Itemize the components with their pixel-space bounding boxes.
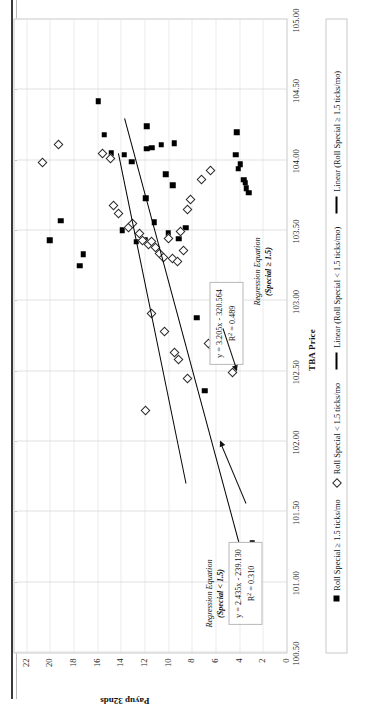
data-point-special-ge <box>233 152 239 158</box>
x-tick-label: 104.00 <box>291 149 301 173</box>
y-axis-title: Payup 32nds <box>100 696 149 706</box>
x-tick-label: 102.00 <box>291 430 301 454</box>
annotation-title-line2: (Special < 1.5) <box>216 569 225 618</box>
x-gridline <box>15 89 287 90</box>
legend-open-diamond-icon <box>332 478 342 488</box>
regression-annotation-title: Regression Equation(Special < 1.5) <box>204 559 226 627</box>
y-tick-label: 20 <box>44 659 54 676</box>
x-gridline <box>15 441 287 442</box>
data-point-special-lt <box>182 204 192 214</box>
legend-filled-square-icon <box>334 596 340 602</box>
legend-item-label: Roll Special ≥ 1.5 ticks/mo <box>332 499 341 590</box>
data-point-special-lt <box>196 175 206 185</box>
annotation-title-line2: (Special ≥ 1.5) <box>264 247 273 296</box>
data-point-special-ge <box>122 152 128 158</box>
x-tick-label: 104.50 <box>291 79 301 103</box>
y-gridline <box>74 20 75 653</box>
trendline-special-lt <box>118 153 187 484</box>
annotation-title-line1: Regression Equation <box>252 237 263 305</box>
x-gridline <box>15 159 287 160</box>
x-tick-label: 105.00 <box>291 8 301 32</box>
y-tick-label: 16 <box>91 659 101 676</box>
legend-line-icon <box>336 197 338 214</box>
regression-equation: y = 2.435x - 239.130 <box>233 549 245 618</box>
regression-r-squared: R2 = 0.310 <box>244 549 258 618</box>
legend-item: Linear (Roll Special ≥ 1.5 ticks/mo) <box>332 71 341 214</box>
legend-item: Linear (Roll Special < 1.5 ticks/mo) <box>332 227 341 370</box>
data-point-special-ge <box>170 183 176 189</box>
data-point-special-ge <box>47 238 53 244</box>
y-gridline <box>26 20 27 653</box>
data-point-special-lt <box>206 165 216 175</box>
data-point-special-lt <box>186 195 196 205</box>
data-point-special-lt <box>97 148 107 158</box>
y-gridline <box>263 20 264 653</box>
data-point-special-ge <box>129 159 135 165</box>
data-point-special-ge <box>77 263 83 269</box>
data-point-special-ge <box>158 142 164 148</box>
y-tick-label: 10 <box>162 659 172 676</box>
data-point-special-ge <box>171 141 177 147</box>
y-tick-label: 6 <box>210 659 220 676</box>
y-tick-label: 18 <box>68 659 78 676</box>
regression-equation-box: y = 2.435x - 239.130R2 = 0.310 <box>229 542 263 625</box>
legend-item: Roll Special ≥ 1.5 ticks/mo <box>332 499 341 601</box>
chart-legend: Roll Special ≥ 1.5 ticks/moRoll Special … <box>326 19 348 654</box>
data-point-special-ge <box>96 98 102 104</box>
y-gridline <box>192 20 193 653</box>
x-gridline <box>15 370 287 371</box>
data-point-special-ge <box>163 171 169 177</box>
x-gridline <box>15 300 287 301</box>
annotation-title-line1: Regression Equation <box>204 559 215 627</box>
y-tick-label: 8 <box>186 659 196 676</box>
y-gridline <box>97 20 98 653</box>
data-point-special-lt <box>163 234 173 244</box>
rotated-figure-container: 100.50101.00101.50102.00102.50103.00103.… <box>0 1 390 700</box>
x-tick-label: 100.50 <box>291 641 301 665</box>
data-point-special-ge <box>80 252 86 258</box>
y-tick-label: 12 <box>139 659 149 676</box>
data-point-special-ge <box>144 124 150 130</box>
data-point-special-ge <box>234 129 240 135</box>
x-axis-title: TBA Price <box>307 1 317 700</box>
data-point-special-lt <box>53 140 63 150</box>
data-point-special-ge <box>238 162 244 168</box>
y-tick-label: 0 <box>281 659 291 676</box>
y-gridline <box>168 20 169 653</box>
y-tick-label: 2 <box>257 659 267 676</box>
regression-equation: y = 3.205x - 320.564 <box>214 289 226 358</box>
y-tick-label: 14 <box>115 659 125 676</box>
data-point-special-lt <box>179 245 189 255</box>
y-gridline <box>121 20 122 653</box>
regression-equation-box: y = 3.205x - 320.564R2 = 0.489 <box>210 282 244 365</box>
data-point-special-ge <box>202 388 208 394</box>
data-point-special-lt <box>141 406 151 416</box>
x-tick-label: 103.00 <box>291 290 301 314</box>
x-tick-label: 102.50 <box>291 360 301 384</box>
data-point-special-ge <box>246 190 252 196</box>
data-point-special-ge <box>102 132 108 138</box>
data-point-special-lt <box>182 373 192 383</box>
scatter-chart-figure: 100.50101.00101.50102.00102.50103.00103.… <box>0 1 390 700</box>
data-point-special-lt <box>173 257 183 267</box>
y-gridline <box>145 20 146 653</box>
x-tick-label: 101.00 <box>291 571 301 595</box>
legend-line-icon <box>336 353 338 370</box>
x-gridline <box>15 511 287 512</box>
y-gridline <box>50 20 51 653</box>
legend-item-label: Linear (Roll Special ≥ 1.5 ticks/mo) <box>332 71 341 192</box>
x-tick-label: 101.50 <box>291 501 301 525</box>
legend-item: Roll Special < 1.5 ticks/mo <box>332 383 341 487</box>
x-gridline <box>15 652 287 653</box>
regression-annotation-title: Regression Equation(Special ≥ 1.5) <box>252 237 274 305</box>
legend-item-label: Roll Special < 1.5 ticks/mo <box>332 383 341 475</box>
data-point-special-ge <box>176 236 182 242</box>
data-point-special-lt <box>174 355 184 365</box>
regression-r-squared: R2 = 0.489 <box>225 289 239 358</box>
y-tick-label: 22 <box>20 659 30 676</box>
x-tick-label: 103.50 <box>291 219 301 243</box>
data-point-special-lt <box>114 209 124 219</box>
y-tick-label: 4 <box>233 659 243 676</box>
legend-item-label: Linear (Roll Special < 1.5 ticks/mo) <box>332 227 341 348</box>
